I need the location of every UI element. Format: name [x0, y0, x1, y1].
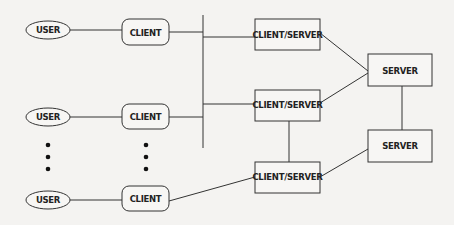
- edge-cs3-server2: [320, 149, 368, 177]
- client-server-node-3: CLIENT/SERVER: [252, 162, 323, 193]
- client-label: CLIENT: [130, 112, 162, 122]
- client-server-label: CLIENT/SERVER: [252, 172, 323, 182]
- client-label: CLIENT: [130, 194, 162, 204]
- user-label: USER: [36, 112, 61, 122]
- edge-client3-cs3: [169, 177, 255, 201]
- client-node-2: CLIENT: [122, 104, 169, 129]
- server-label: SERVER: [382, 141, 418, 151]
- client-server-label: CLIENT/SERVER: [252, 30, 323, 40]
- server-node-2: SERVER: [368, 130, 432, 162]
- user-label: USER: [36, 25, 61, 35]
- client-server-label: CLIENT/SERVER: [252, 100, 323, 110]
- edge-cs2-server1: [320, 73, 368, 103]
- network-diagram: USER USER USER CLIENT CLIENT CLIENT CLIE…: [0, 0, 454, 225]
- user-node-3: USER: [26, 191, 70, 209]
- user-label: USER: [36, 195, 61, 205]
- server-label: SERVER: [382, 66, 418, 76]
- server-node-1: SERVER: [368, 54, 432, 86]
- client-label: CLIENT: [130, 28, 162, 38]
- more-clients-dots-icon: [144, 143, 149, 172]
- user-node-2: USER: [26, 108, 70, 126]
- more-users-dots-icon: [46, 143, 51, 172]
- client-server-node-1: CLIENT/SERVER: [252, 19, 323, 50]
- client-node-1: CLIENT: [122, 19, 169, 45]
- user-node-1: USER: [26, 21, 70, 39]
- client-server-node-2: CLIENT/SERVER: [252, 90, 323, 121]
- client-node-3: CLIENT: [122, 186, 169, 211]
- edge-cs1-server1: [320, 33, 368, 71]
